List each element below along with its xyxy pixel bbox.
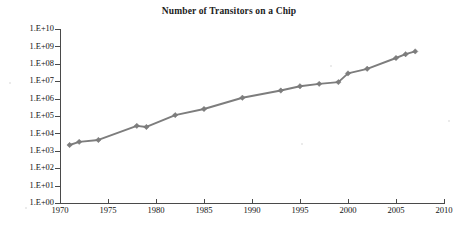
scan-speckle [301,143,303,145]
y-axis-tick [55,151,60,152]
y-axis-tick-label: 1.E+09 [30,43,55,51]
y-axis-tick [55,64,60,65]
y-axis-tick [55,133,60,134]
y-axis-tick [55,81,60,82]
y-axis-tick [55,186,60,187]
series-line [70,51,416,145]
series-data-point [144,124,149,129]
y-axis-tick-label: 1.E+02 [30,164,55,172]
x-axis-tick-label: 1990 [243,206,260,215]
series-data-point [336,79,341,84]
x-axis-tick [396,199,397,204]
y-axis-tick [55,116,60,117]
series-data-point [317,81,322,86]
series-data-point [77,139,82,144]
series-data-point [201,106,206,111]
x-axis-tick [348,199,349,204]
x-axis-tick [300,199,301,204]
x-axis-tick-label: 2010 [435,206,452,215]
series-data-point [134,123,139,128]
series-data-point [96,137,101,142]
series-data-point [365,66,370,71]
series-data-point [403,52,408,57]
x-axis-tick [156,199,157,204]
scan-speckle [9,82,11,84]
y-axis-tick [55,168,60,169]
y-axis-tick [55,99,60,100]
x-axis-tick [60,199,61,204]
series-data-point [413,49,418,54]
y-axis-tick-label: 1.E+01 [30,182,55,190]
chart-container: Number of Transitors on a Chip 1.E+001.E… [0,0,458,239]
y-axis-tick-label: 1.E+06 [30,95,55,103]
x-axis-tick [444,199,445,204]
y-axis-tick-label: 1.E+03 [30,147,55,155]
series-data-point [173,112,178,117]
x-axis-tick-label: 1995 [291,206,308,215]
scan-speckle [448,120,450,122]
y-axis-tick [55,46,60,47]
scan-speckle [25,207,27,209]
x-axis-tick-label: 2000 [339,206,356,215]
series-data-point [393,55,398,60]
series-data-point [278,88,283,93]
x-axis-tick-label: 1970 [51,206,68,215]
series-data-point [240,95,245,100]
series-markers [67,49,418,148]
x-axis-tick [204,199,205,204]
x-axis-tick-label: 2005 [387,206,404,215]
x-axis-tick-label: 1975 [99,206,116,215]
x-axis-tick-label: 1985 [195,206,212,215]
y-axis-tick-label: 1.E+08 [30,60,55,68]
series-data-point [297,84,302,89]
x-axis-tick-label: 1980 [147,206,164,215]
y-axis-tick-label: 1.E+05 [30,112,55,120]
x-axis-tick [252,199,253,204]
y-axis-tick-label: 1.E+10 [30,25,55,33]
y-axis-tick [55,29,60,30]
x-axis-tick [108,199,109,204]
chart-title: Number of Transitors on a Chip [0,6,458,16]
series-data-point [67,142,72,147]
y-axis-tick-label: 1.E+00 [30,199,55,207]
series-data-point [345,71,350,76]
y-axis-tick-label: 1.E+07 [30,77,55,85]
y-axis-tick-label: 1.E+04 [30,130,55,138]
scan-speckle [330,65,332,67]
